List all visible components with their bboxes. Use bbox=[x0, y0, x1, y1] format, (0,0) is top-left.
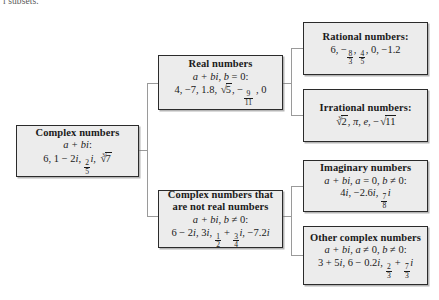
node-irrational-numbers-examples: 3√2, π, e, −√11 bbox=[335, 115, 397, 128]
node-imaginary-numbers-form: a + bi, a = 0, b ≠ 0: bbox=[324, 175, 406, 187]
node-irrational-numbers[interactable]: Irrational numbers: 3√2, π, e, −√11 bbox=[303, 89, 428, 142]
connector-to-rational bbox=[291, 48, 303, 49]
connector-notreal-spine bbox=[291, 186, 292, 256]
node-irrational-numbers-title: Irrational numbers: bbox=[319, 102, 411, 114]
node-complex-numbers-title: Complex numbers bbox=[35, 127, 119, 139]
connector-real-spine bbox=[291, 48, 292, 116]
node-complex-numbers[interactable]: Complex numbers a + bi: 6, 1 − 2i, 25i, … bbox=[16, 125, 139, 177]
node-real-numbers-title: Real numbers bbox=[189, 58, 253, 70]
connector-to-imaginary bbox=[291, 186, 303, 187]
node-complex-numbers-form: a + bi: bbox=[63, 139, 92, 151]
node-complex-not-real-examples: 6 − 2i, 3i, 12 + 34i, −7.2i bbox=[171, 227, 269, 249]
node-complex-not-real-title-line2: are not real numbers bbox=[173, 201, 269, 213]
node-imaginary-numbers-examples: 4i, −2.6i, 78i bbox=[340, 187, 390, 209]
node-imaginary-numbers-title: Imaginary numbers bbox=[320, 162, 411, 174]
diagram-canvas: l subsets. Complex numbers a + bi: 6, 1 … bbox=[0, 0, 439, 300]
connector-to-real-numbers bbox=[147, 83, 158, 84]
node-other-complex-numbers-title: Other complex numbers bbox=[310, 232, 421, 244]
node-complex-not-real-form: a + bi, b ≠ 0: bbox=[193, 214, 248, 226]
cutoff-caption-text: l subsets. bbox=[3, 0, 39, 7]
node-other-complex-numbers-form: a + bi, a ≠ 0, b ≠ 0: bbox=[324, 244, 406, 256]
node-complex-numbers-examples: 6, 1 − 2i, 25i, 3√7 bbox=[43, 152, 111, 175]
node-real-numbers[interactable]: Real numbers a + bi, b = 0: 4, −7, 1.8, … bbox=[158, 55, 283, 110]
node-real-numbers-form: a + bi, b = 0: bbox=[193, 71, 249, 83]
connector-root-spine bbox=[147, 83, 148, 217]
node-imaginary-numbers[interactable]: Imaginary numbers a + bi, a = 0, b ≠ 0: … bbox=[303, 160, 428, 212]
node-other-complex-numbers[interactable]: Other complex numbers a + bi, a ≠ 0, b ≠… bbox=[303, 226, 428, 285]
connector-to-complex-not-real bbox=[147, 216, 158, 217]
connector-to-other-complex bbox=[291, 255, 303, 256]
node-complex-not-real[interactable]: Complex numbers that are not real number… bbox=[158, 190, 283, 248]
connector-to-irrational bbox=[291, 115, 303, 116]
node-rational-numbers[interactable]: Rational numbers: 6, −83, 45, 0, −1.2 bbox=[303, 22, 428, 75]
node-rational-numbers-title: Rational numbers: bbox=[323, 31, 409, 43]
node-other-complex-numbers-examples: 3 + 5i, 6 − 0.2i, 23 + 73i bbox=[318, 257, 413, 279]
node-real-numbers-examples: 4, −7, 1.8, √5, −911 , 0 bbox=[174, 83, 266, 106]
node-rational-numbers-examples: 6, −83, 45, 0, −1.2 bbox=[330, 44, 400, 66]
node-complex-not-real-title-line1: Complex numbers that bbox=[168, 189, 273, 201]
